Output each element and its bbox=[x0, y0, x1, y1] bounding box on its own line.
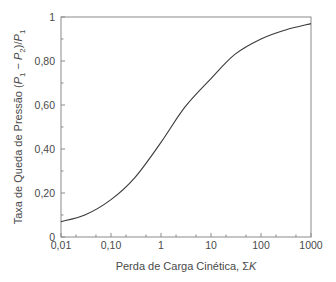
x-tick-label: 1 bbox=[158, 239, 164, 251]
y-tick-label: 0,80 bbox=[35, 55, 56, 67]
x-axis-title: Perda de Carga Cinética, ΣK bbox=[116, 260, 257, 272]
plot-frame bbox=[61, 17, 311, 237]
y-axis-tick-labels: 00,200,400,600,801 bbox=[35, 11, 56, 243]
x-tick-label: 100 bbox=[252, 239, 270, 251]
x-tick-label: 10 bbox=[205, 239, 217, 251]
y-tick-label: 0,40 bbox=[35, 143, 56, 155]
x-axis-ticks bbox=[61, 233, 311, 237]
x-tick-label: 1000 bbox=[299, 239, 323, 251]
y-tick-label: 0,60 bbox=[35, 99, 56, 111]
x-tick-label: 0,10 bbox=[101, 239, 122, 251]
y-tick-label: 0 bbox=[49, 231, 55, 243]
data-curve bbox=[61, 24, 311, 222]
y-tick-label: 1 bbox=[49, 11, 55, 23]
y-axis-title: Taxa de Queda de Pressão (P1 − P2)/P1 bbox=[12, 29, 27, 224]
y-tick-label: 0,20 bbox=[35, 187, 56, 199]
y-axis-ticks bbox=[61, 17, 65, 237]
x-axis-tick-labels: 0,010,101101001000 bbox=[51, 239, 323, 251]
chart: 0,010,101101001000 00,200,400,600,801 Pe… bbox=[0, 0, 336, 282]
